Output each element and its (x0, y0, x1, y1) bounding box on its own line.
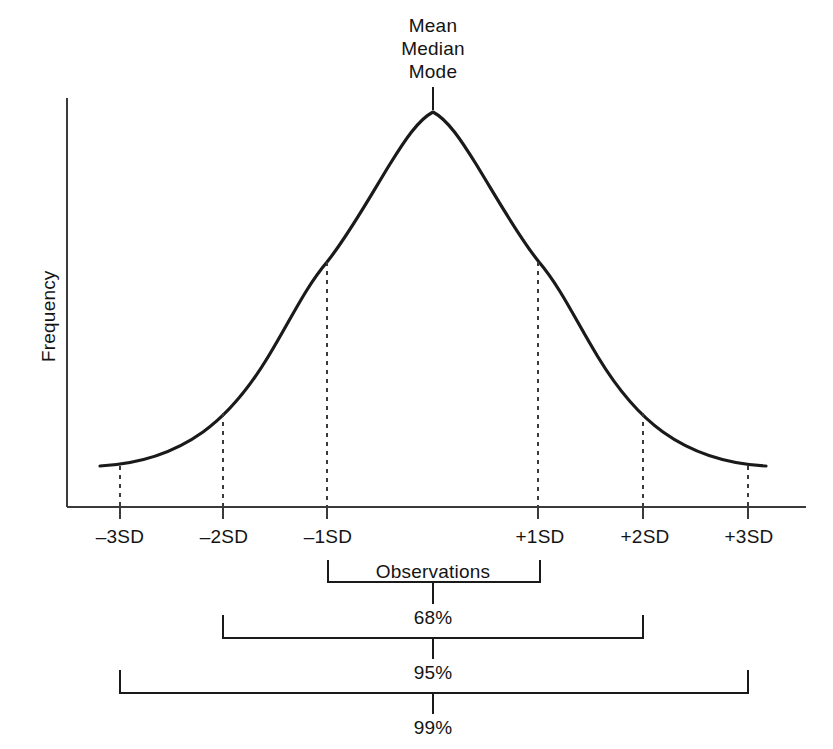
bracket-label-99-percent: 99% (414, 717, 453, 739)
x-tick-label-minus-2sd: –2SD (200, 526, 248, 548)
x-tick-label-plus-1sd: +1SD (516, 526, 565, 548)
figure-canvas: Mean Median Mode Frequency –3SD –2SD –1S… (0, 0, 833, 749)
y-axis-label: Frequency (38, 270, 60, 362)
bell-curve-path (100, 112, 766, 466)
x-tick-label-plus-3sd: +3SD (725, 526, 774, 548)
x-tick-label-minus-1sd: –1SD (304, 526, 352, 548)
bracket-label-observations: Observations (376, 561, 490, 583)
bracket-label-95-percent: 95% (414, 662, 453, 684)
peak-label-median: Median (401, 37, 465, 60)
x-axis-ticks (120, 507, 748, 519)
bracket-label-68-percent: 68% (414, 607, 453, 629)
peak-annotation: Mean Median Mode (401, 14, 465, 83)
peak-label-mean: Mean (401, 14, 465, 37)
distribution-figure (0, 0, 833, 749)
sd-dashed-markers (120, 262, 748, 507)
x-tick-label-minus-3sd: –3SD (96, 526, 144, 548)
x-tick-label-plus-2sd: +2SD (621, 526, 670, 548)
peak-label-mode: Mode (401, 60, 465, 83)
